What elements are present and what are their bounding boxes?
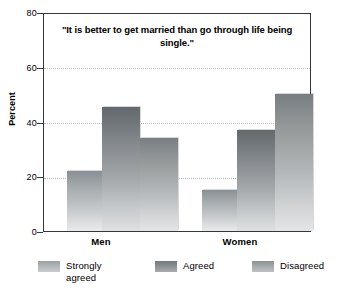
y-tick-label-20: 20 <box>7 173 37 182</box>
y-tick-label-60: 60 <box>7 64 37 73</box>
legend-swatch-icon-strongly-agreed <box>38 261 60 272</box>
y-tick-label-40: 40 <box>7 119 37 128</box>
chart-title: "It is better to get married than go thr… <box>44 23 310 49</box>
legend: Strongly agreed Agreed Disagreed <box>0 260 339 293</box>
legend-label-disagreed: Disagreed <box>280 260 324 272</box>
bar-men-agreed <box>102 107 140 231</box>
plot-area: "It is better to get married than go thr… <box>43 13 311 232</box>
bar-men-strongly-agreed <box>67 171 102 231</box>
y-tick-label-80: 80 <box>7 9 37 18</box>
bar-chart: Percent 80 60 40 20 0 "It is better to g… <box>0 0 339 293</box>
bar-women-disagreed <box>275 94 313 231</box>
legend-item-disagreed: Disagreed <box>252 260 324 272</box>
legend-label-strongly-agreed: Strongly agreed <box>66 260 102 283</box>
y-tick-mark-0 <box>37 232 43 233</box>
legend-item-agreed: Agreed <box>155 260 214 272</box>
bar-men-disagreed <box>140 138 178 231</box>
bar-women-agreed <box>237 130 275 231</box>
gridline-60 <box>44 68 310 70</box>
bar-women-strongly-agreed <box>202 190 237 231</box>
y-tick-label-0: 0 <box>7 228 37 237</box>
legend-item-strongly-agreed: Strongly agreed <box>38 260 102 283</box>
legend-swatch-icon-agreed <box>155 261 177 272</box>
y-axis-ticks: 80 60 40 20 0 <box>0 0 37 293</box>
gridline-40 <box>44 123 310 125</box>
legend-label-agreed: Agreed <box>183 260 214 272</box>
legend-swatch-icon-disagreed <box>252 261 274 272</box>
x-label-men: Men <box>66 236 136 247</box>
x-label-women: Women <box>200 236 280 247</box>
